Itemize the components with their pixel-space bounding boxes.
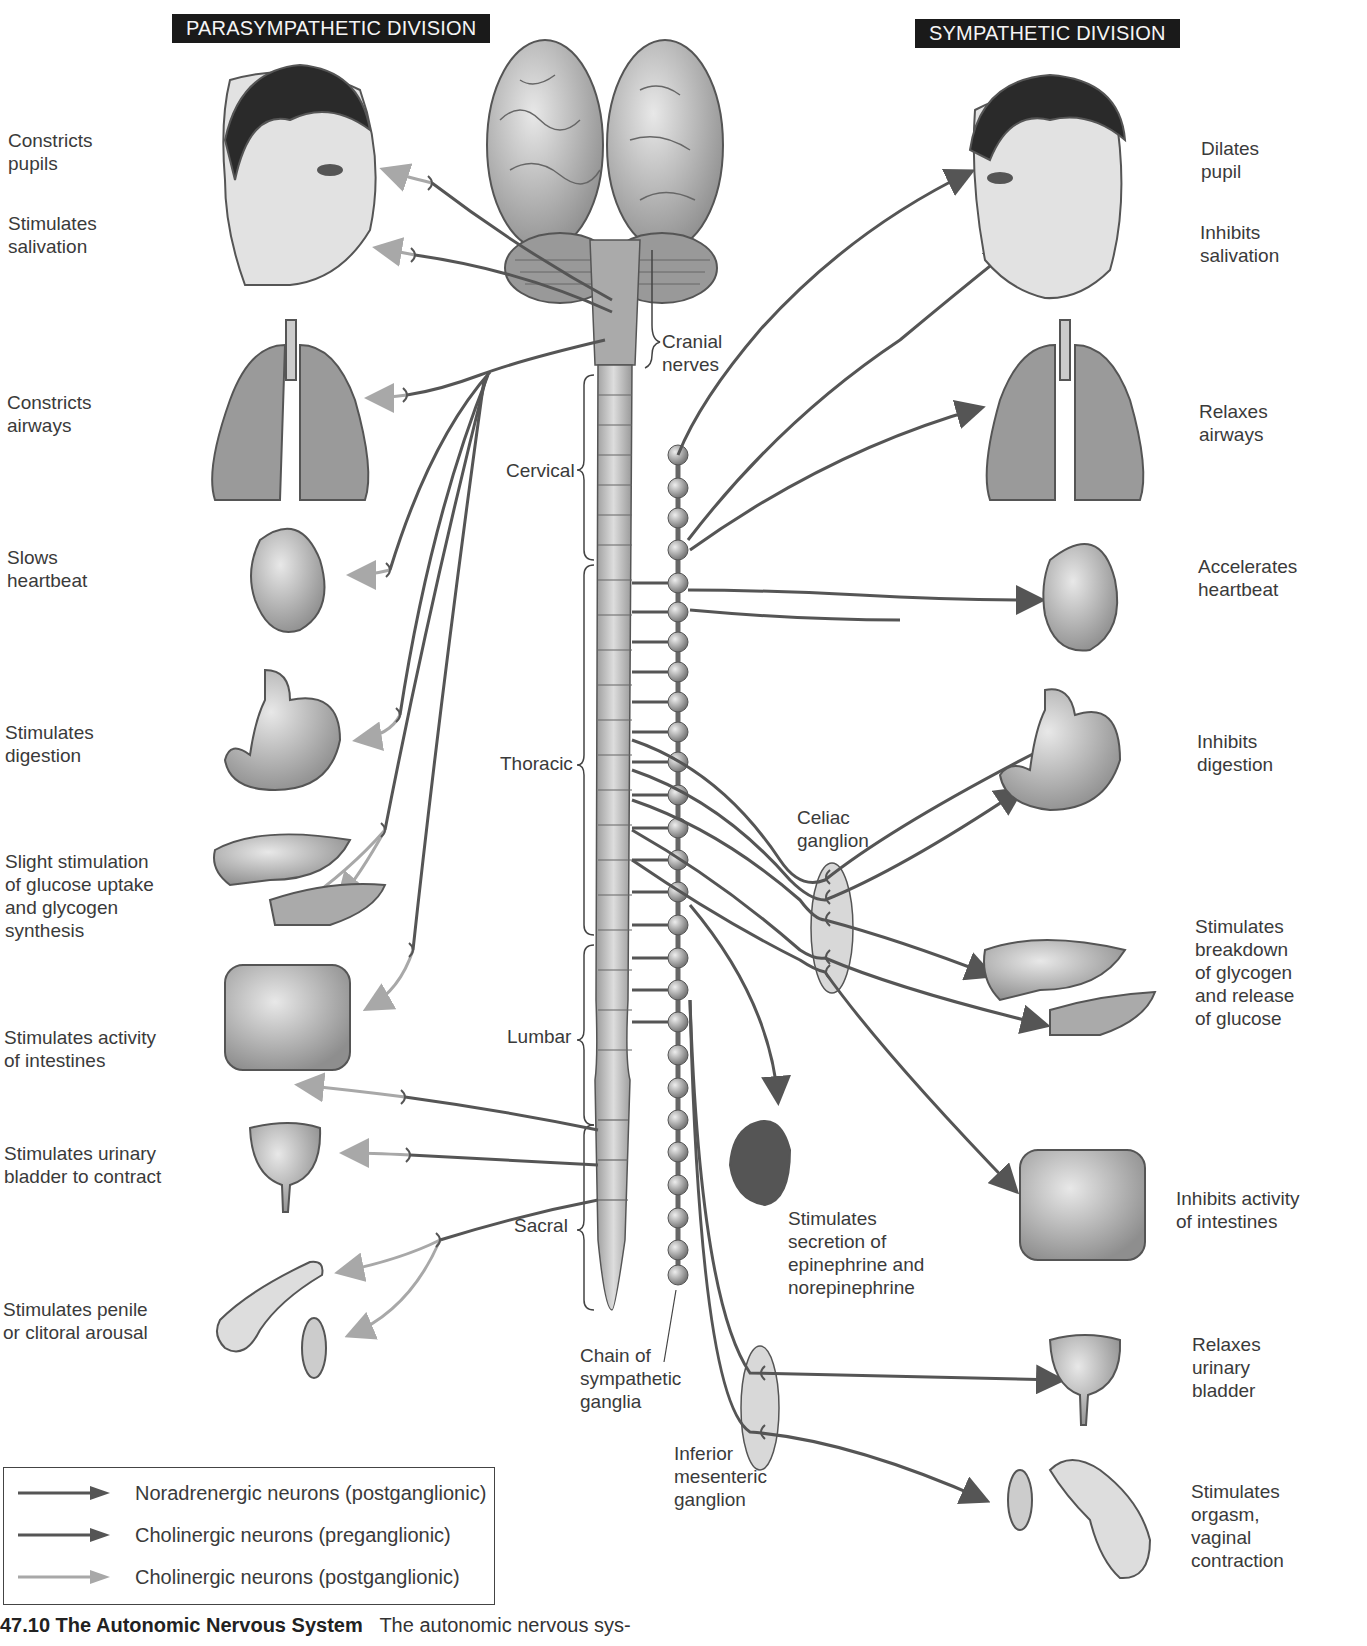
right-liver — [984, 940, 1125, 1000]
left-stomach — [225, 670, 340, 790]
spinal-cord — [590, 240, 640, 1310]
para-effect-intestines: Stimulates activity of intestines — [4, 1026, 156, 1072]
caption-title: 47.10 The Autonomic Nervous System — [0, 1614, 363, 1636]
right-heart — [1043, 544, 1117, 651]
label-chain-ganglia: Chain of sympathetic ganglia — [580, 1344, 681, 1413]
dark-arrow-icon — [18, 1483, 113, 1503]
legend: Noradrenergic neurons (postganglionic) C… — [3, 1467, 495, 1605]
right-head — [970, 75, 1125, 298]
symp-effect-genitals: Stimulates orgasm, vaginal contraction — [1191, 1480, 1284, 1572]
left-liver — [214, 834, 350, 885]
symp-effect-adrenal: Stimulates secretion of epinephrine and … — [788, 1207, 924, 1299]
right-bladder — [1050, 1335, 1120, 1425]
right-vulva — [1008, 1470, 1032, 1530]
para-effect-heartbeat: Slows heartbeat — [7, 546, 87, 592]
right-lungs — [987, 320, 1144, 500]
para-effect-airways: Constricts airways — [7, 391, 91, 437]
left-organs — [212, 65, 385, 1378]
para-effect-genitals: Stimulates penile or clitoral arousal — [3, 1298, 148, 1344]
legend-label: Cholinergic neurons (preganglionic) — [135, 1524, 451, 1547]
symp-effect-salivation: Inhibits salivation — [1200, 221, 1279, 267]
symp-effect-digestion: Inhibits digestion — [1197, 730, 1273, 776]
right-penis — [1050, 1460, 1150, 1578]
caption-text: The autonomic nervous sys- — [379, 1614, 630, 1636]
legend-label: Noradrenergic neurons (postganglionic) — [135, 1482, 486, 1505]
symp-effect-heartbeat: Accelerates heartbeat — [1198, 555, 1297, 601]
figure-caption: 47.10 The Autonomic Nervous System The a… — [0, 1614, 631, 1637]
sympathetic-chain — [632, 445, 688, 1362]
symp-effect-pupil: Dilates pupil — [1201, 137, 1259, 183]
para-effect-glucose: Slight stimulation of glucose uptake and… — [5, 850, 154, 942]
dark-arrow-icon — [18, 1525, 113, 1545]
left-heart — [251, 529, 325, 632]
para-effect-pupils: Constricts pupils — [8, 129, 92, 175]
right-organs — [730, 75, 1155, 1578]
legend-item-cholinergic-post: Cholinergic neurons (postganglionic) — [4, 1562, 460, 1592]
label-cranial-nerves: Cranial nerves — [662, 330, 722, 376]
legend-item-cholinergic-pre: Cholinergic neurons (preganglionic) — [4, 1520, 451, 1550]
legend-item-noradrenergic-post: Noradrenergic neurons (postganglionic) — [4, 1478, 486, 1508]
left-vulva — [302, 1318, 326, 1378]
left-pancreas — [270, 884, 385, 925]
legend-label: Cholinergic neurons (postganglionic) — [135, 1566, 460, 1589]
right-adrenal-kidney — [730, 1121, 790, 1205]
autonomic-diagram — [0, 0, 1367, 1646]
symp-effect-glycogen: Stimulates breakdown of glycogen and rel… — [1195, 915, 1294, 1030]
left-intestines — [225, 965, 350, 1070]
symp-effect-airways: Relaxes airways — [1199, 400, 1268, 446]
label-cervical: Cervical — [506, 459, 575, 482]
light-arrow-icon — [18, 1567, 113, 1587]
para-effect-digestion: Stimulates digestion — [5, 721, 94, 767]
right-intestines — [1020, 1150, 1145, 1260]
label-lumbar: Lumbar — [507, 1025, 571, 1048]
right-pancreas — [1050, 992, 1155, 1035]
left-bladder — [250, 1123, 320, 1212]
para-effect-bladder: Stimulates urinary bladder to contract — [4, 1142, 161, 1188]
left-lungs — [212, 320, 368, 500]
symp-effect-intestines: Inhibits activity of intestines — [1176, 1187, 1300, 1233]
right-stomach — [1000, 689, 1120, 810]
label-inferior-mesenteric-ganglion: Inferior mesenteric ganglion — [674, 1442, 767, 1511]
symp-effect-bladder: Relaxes urinary bladder — [1192, 1333, 1261, 1402]
label-celiac-ganglion: Celiac ganglion — [797, 806, 869, 852]
label-thoracic: Thoracic — [500, 752, 573, 775]
para-effect-salivation: Stimulates salivation — [8, 212, 97, 258]
label-sacral: Sacral — [514, 1214, 568, 1237]
left-head — [223, 65, 375, 285]
